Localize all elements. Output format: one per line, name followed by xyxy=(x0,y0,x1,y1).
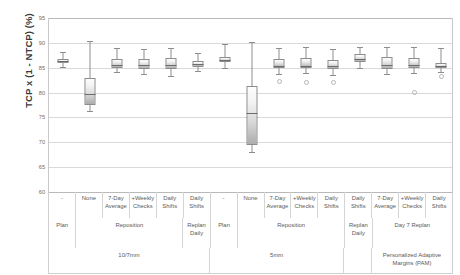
whisker-cap-min xyxy=(86,111,92,112)
whisker-cap-min xyxy=(194,71,200,72)
median-line xyxy=(57,61,68,62)
boxplot-column xyxy=(319,18,346,192)
whisker-cap-max xyxy=(437,48,443,49)
whisker-cap-min xyxy=(140,74,146,75)
whisker-line xyxy=(413,47,414,73)
table-label-cell: 7-DayAverage xyxy=(265,192,292,218)
table-label-cell: DailyShifts xyxy=(426,192,452,218)
y-tick-65: 65 xyxy=(39,164,45,170)
box-iqr xyxy=(219,57,230,62)
whisker-line xyxy=(89,41,90,111)
whisker-cap-min xyxy=(248,152,254,153)
table-label-cell: None xyxy=(76,192,103,218)
table-label-cell: DailyShifts xyxy=(184,192,211,218)
median-line xyxy=(138,65,149,66)
whisker-cap-min xyxy=(167,76,173,77)
table-label-cell: +WeeklyChecks xyxy=(291,192,318,218)
whisker-cap-min xyxy=(410,73,416,74)
outlier-point xyxy=(331,80,336,85)
median-line xyxy=(165,65,176,66)
whisker-cap-min xyxy=(437,72,443,73)
boxplot-column xyxy=(49,18,76,192)
whisker-line xyxy=(278,48,279,74)
outlier-point xyxy=(277,79,282,84)
whisker-cap-max xyxy=(194,53,200,54)
boxplot-column xyxy=(427,18,454,192)
outlier-point xyxy=(439,74,444,79)
whisker-cap-max xyxy=(275,48,281,49)
whisker-line xyxy=(62,52,63,67)
whisker-cap-max xyxy=(167,48,173,49)
table-cell xyxy=(344,248,372,274)
whisker-cap-min xyxy=(275,74,281,75)
table-label-cell: +WeeklyChecks xyxy=(130,192,157,218)
box-iqr xyxy=(354,54,365,62)
whisker-cap-min xyxy=(113,72,119,73)
median-line xyxy=(381,65,392,66)
box-iqr xyxy=(84,78,95,105)
gridline-80 xyxy=(49,93,452,94)
median-line xyxy=(219,60,230,61)
table-row-labels: -None7-DayAverage+WeeklyChecksDailyShift… xyxy=(49,192,452,218)
boxplot-column xyxy=(373,18,400,192)
whisker-cap-max xyxy=(140,49,146,50)
median-line xyxy=(354,59,365,60)
boxplot-column xyxy=(211,18,238,192)
table-cell: Day 7 Replan xyxy=(373,218,452,248)
boxplot-column xyxy=(238,18,265,192)
box-iqr xyxy=(192,61,203,67)
y-tick-80: 80 xyxy=(39,90,45,96)
box-iqr xyxy=(300,58,311,68)
whisker-cap-max xyxy=(383,47,389,48)
boxplot-column xyxy=(103,18,130,192)
y-tick-90: 90 xyxy=(39,40,45,46)
gridline-90 xyxy=(49,43,452,44)
table-label-cell: +WeeklyChecks xyxy=(399,192,426,218)
table-cell: 5mm xyxy=(210,248,344,274)
whisker-line xyxy=(332,49,333,75)
table-row-groups: PlanRepositionReplanDailyPlanRepositionR… xyxy=(49,218,452,248)
table-label-cell: DailyShifts xyxy=(157,192,184,218)
table-label-cell: 7-DayAverage xyxy=(103,192,130,218)
y-tick-85: 85 xyxy=(39,65,45,71)
median-line xyxy=(435,66,446,67)
table-cell: Personalized AdaptiveMargins (PAM) xyxy=(372,248,452,274)
whisker-cap-max xyxy=(113,48,119,49)
boxplot-column xyxy=(292,18,319,192)
outlier-point xyxy=(304,80,309,85)
whisker-cap-min xyxy=(329,75,335,76)
table-cell: 10/7mm xyxy=(49,248,210,274)
whisker-line xyxy=(170,48,171,76)
table-cell: Plan xyxy=(211,218,238,248)
y-tick-95: 95 xyxy=(39,15,45,21)
boxplot-column xyxy=(184,18,211,192)
y-tick-75: 75 xyxy=(39,114,45,120)
table-label-cell: DailyShifts xyxy=(345,192,372,218)
boxplot-column xyxy=(400,18,427,192)
median-line xyxy=(327,66,338,67)
table-cell: ReplanDaily xyxy=(183,218,210,248)
table-label-cell: - xyxy=(49,192,76,218)
whisker-cap-max xyxy=(356,47,362,48)
boxplot-column xyxy=(157,18,184,192)
table-cell: Plan xyxy=(49,218,76,248)
boxplot-column xyxy=(346,18,373,192)
y-axis-title: TCP x (1 - NTCP) (%) xyxy=(23,0,34,141)
box-iqr xyxy=(246,86,257,145)
category-table: -None7-DayAverage+WeeklyChecksDailyShift… xyxy=(48,192,453,274)
median-line xyxy=(192,64,203,65)
box-iqr xyxy=(57,59,68,62)
whisker-cap-max xyxy=(221,44,227,45)
table-cell: Reposition xyxy=(238,218,345,248)
table-label-cell: None xyxy=(238,192,265,218)
whisker-cap-min xyxy=(383,74,389,75)
whisker-line xyxy=(386,47,387,73)
gridline-95 xyxy=(49,18,452,19)
table-label-cell: DailyShifts xyxy=(318,192,345,218)
whisker-line xyxy=(224,44,225,68)
boxplot-column xyxy=(130,18,157,192)
whisker-cap-max xyxy=(410,47,416,48)
table-label-cell: 7-DayAverage xyxy=(372,192,399,218)
gridline-65 xyxy=(49,167,452,168)
table-row-margins: 10/7mm5mmPersonalized AdaptiveMargins (P… xyxy=(49,248,452,274)
